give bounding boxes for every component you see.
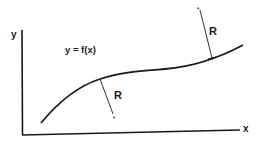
y-axis-label: y (11, 30, 17, 40)
left-center-marker-icon: * (113, 115, 116, 122)
right-radius-label: R (209, 26, 217, 37)
function-label: y = f(x) (65, 45, 96, 55)
x-axis-label: x (243, 124, 249, 134)
curvature-diagram: * * (0, 0, 261, 145)
left-radius-line (100, 79, 113, 114)
function-curve (41, 45, 243, 123)
right-center-marker-icon: * (197, 6, 200, 13)
y-axis (22, 30, 23, 135)
x-axis (22, 130, 240, 135)
left-radius-label: R (114, 90, 122, 101)
